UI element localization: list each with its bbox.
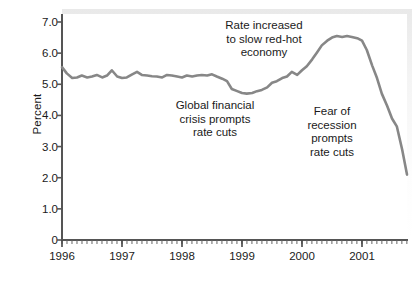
- chart-canvas: [0, 0, 412, 285]
- chart-root: Percent 01.02.03.04.05.06.07.0 199619971…: [0, 0, 412, 285]
- data-line: [62, 36, 407, 175]
- chart-series: [62, 36, 407, 175]
- chart-axes: [57, 14, 408, 247]
